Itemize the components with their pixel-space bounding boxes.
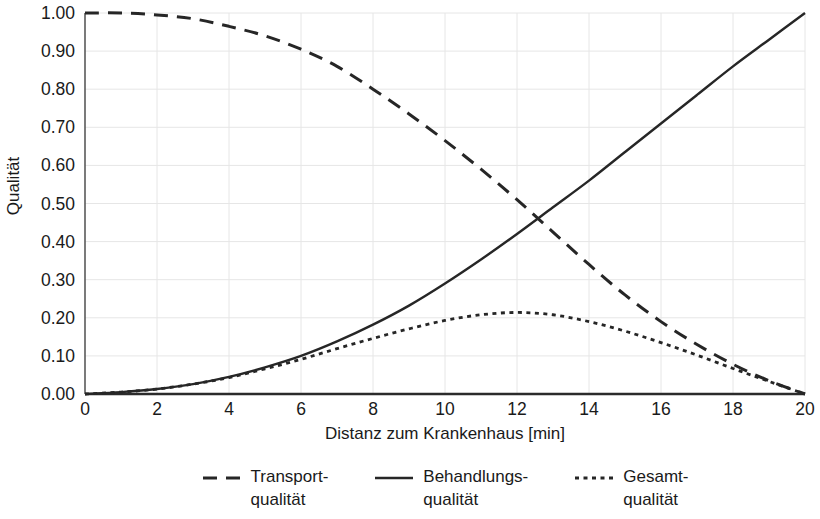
legend-label: Transport- qualität [251, 466, 329, 512]
legend-item[interactable]: Gesamt- qualität [574, 466, 688, 512]
dashed-line-icon [202, 467, 242, 487]
chart-container: Qualität 0.000.100.200.300.400.500.600.7… [0, 0, 820, 519]
gridlines [85, 13, 805, 394]
legend-label: Gesamt- qualität [623, 466, 688, 512]
legend-label: Behandlungs- qualität [423, 466, 528, 512]
x-axis-title: Distanz zum Krankenhaus [min] [85, 424, 805, 444]
solid-line-icon [374, 467, 414, 487]
chart-legend: Transport- qualitätBehandlungs- qualität… [85, 466, 805, 512]
dotted-line-icon [574, 467, 614, 487]
legend-item[interactable]: Transport- qualität [202, 466, 329, 512]
legend-item[interactable]: Behandlungs- qualität [374, 466, 528, 512]
